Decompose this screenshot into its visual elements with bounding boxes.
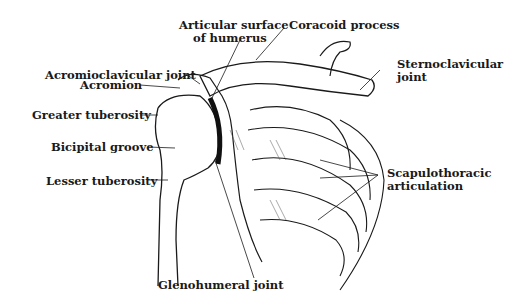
label-articular-surface: Articular surface of humerus bbox=[179, 19, 289, 45]
label-acromion: Acromion bbox=[80, 79, 142, 92]
shoulder-diagram: Articular surface of humerus Coracoid pr… bbox=[0, 0, 517, 306]
label-greater-tuberosity: Greater tuberosity bbox=[32, 109, 151, 122]
label-glenohumeral-joint: Glenohumeral joint bbox=[158, 279, 284, 292]
label-lesser-tuberosity: Lesser tuberosity bbox=[46, 175, 157, 188]
label-scapulothoracic-line2: articulation bbox=[387, 180, 491, 193]
label-sternoclavicular-line2: joint bbox=[397, 71, 503, 84]
label-coracoid-process: Coracoid process bbox=[289, 19, 399, 32]
label-scapulothoracic-articulation: Scapulothoracic articulation bbox=[387, 167, 491, 193]
label-sternoclavicular-joint: Sternoclavicular joint bbox=[397, 58, 503, 84]
label-articular-surface-line2: of humerus bbox=[179, 32, 289, 45]
label-bicipital-groove: Bicipital groove bbox=[51, 141, 153, 154]
